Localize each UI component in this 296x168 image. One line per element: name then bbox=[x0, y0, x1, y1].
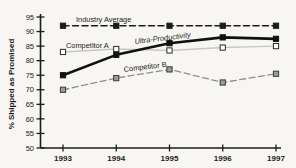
filled-square-marker bbox=[114, 52, 119, 57]
x-tick-label: 1995 bbox=[161, 154, 179, 163]
open-square-marker bbox=[114, 46, 119, 51]
y-tick-label: 55 bbox=[26, 129, 34, 138]
filled-square-marker bbox=[220, 23, 225, 28]
gray-square-marker bbox=[167, 67, 172, 72]
y-tick-label: 70 bbox=[26, 85, 34, 94]
y-tick-label: 60 bbox=[26, 115, 34, 124]
series-label-industry-average: Industry Average bbox=[76, 15, 131, 24]
y-tick-label: 75 bbox=[26, 71, 34, 80]
filled-square-marker bbox=[60, 73, 65, 78]
open-square-marker bbox=[167, 48, 172, 53]
x-tick-label: 1994 bbox=[107, 154, 125, 163]
y-tick-label: 50 bbox=[26, 144, 34, 153]
chart-canvas: % Shipped as Promised 505560657075808590… bbox=[0, 0, 296, 168]
filled-square-marker bbox=[60, 23, 65, 28]
y-tick-label: 95 bbox=[26, 13, 34, 22]
filled-square-marker bbox=[273, 36, 278, 41]
gray-square-marker bbox=[273, 71, 278, 76]
series-label-competitor-a: Competitor A bbox=[66, 41, 109, 50]
gray-square-marker bbox=[220, 80, 225, 85]
y-axis-title: % Shipped as Promised bbox=[7, 39, 16, 130]
y-tick-label: 80 bbox=[26, 56, 34, 65]
open-square-marker bbox=[220, 45, 225, 50]
open-square-marker bbox=[273, 44, 278, 49]
filled-square-marker bbox=[220, 35, 225, 40]
filled-square-marker bbox=[167, 23, 172, 28]
gray-square-marker bbox=[60, 87, 65, 92]
chart-figure: % Shipped as Promised 505560657075808590… bbox=[0, 0, 296, 168]
y-tick-label: 90 bbox=[26, 27, 34, 36]
series-industry-average: Industry Average bbox=[60, 15, 278, 28]
series-label-competitor-b: Competitor B bbox=[123, 60, 167, 74]
y-tick-label: 65 bbox=[26, 100, 34, 109]
gray-square-marker bbox=[114, 76, 119, 81]
open-square-marker bbox=[60, 49, 65, 54]
filled-square-marker bbox=[273, 23, 278, 28]
y-axis-ticks: 50556065707580859095 bbox=[26, 13, 45, 153]
x-tick-label: 1993 bbox=[54, 154, 72, 163]
x-tick-label: 1997 bbox=[267, 154, 285, 163]
y-tick-label: 85 bbox=[26, 42, 34, 51]
x-tick-label: 1996 bbox=[214, 154, 232, 163]
